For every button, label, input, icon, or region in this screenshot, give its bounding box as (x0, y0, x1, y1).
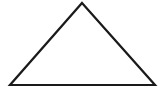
triangle-figure (0, 0, 164, 92)
drawing-canvas (0, 0, 164, 92)
triangle-shape (10, 3, 155, 85)
